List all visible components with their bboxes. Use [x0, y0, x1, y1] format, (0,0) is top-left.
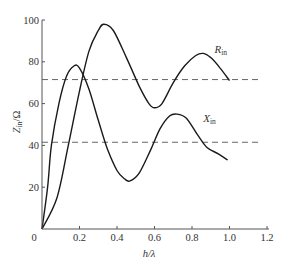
- x-tick-label: 1.0: [223, 232, 236, 243]
- y-axis-label: Zin/Ω: [11, 111, 24, 134]
- y-tick-label: 40: [29, 140, 40, 151]
- plot-area: [42, 24, 261, 229]
- y-tick-label: 100: [23, 15, 39, 26]
- y-tick-label: 60: [29, 98, 40, 109]
- impedance-chart: 00.20.40.60.81.01.220406080100 h/λ Zin/Ω…: [0, 0, 283, 268]
- series-label-r-in: Rin: [214, 43, 228, 57]
- series-line-x-in: [42, 65, 228, 229]
- x-tick-label: 0.4: [110, 232, 124, 243]
- x-tick-label: 0.8: [185, 232, 198, 243]
- x-tick-label: 1.2: [260, 232, 273, 243]
- x-tick-label: 0.2: [73, 232, 86, 243]
- series-label-x-in: Xin: [202, 112, 216, 126]
- y-tick-label: 20: [29, 182, 40, 193]
- axes: 00.20.40.60.81.01.220406080100: [23, 15, 273, 244]
- svg-text:Zin/Ω: Zin/Ω: [11, 111, 24, 134]
- x-axis-label: h/λ: [143, 248, 156, 259]
- x-tick-label: 0: [31, 232, 36, 243]
- y-tick-label: 80: [29, 56, 40, 67]
- series-line-r-in: [42, 24, 230, 229]
- x-tick-label: 0.6: [148, 232, 161, 243]
